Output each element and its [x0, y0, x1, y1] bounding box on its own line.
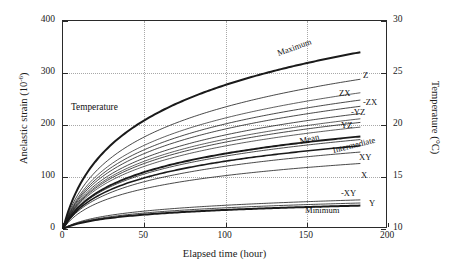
axis-tick-secondary	[381, 229, 386, 230]
axis-tick	[388, 223, 389, 227]
chart-root: Anelastic strain (10-6) Temperature (°C)…	[0, 0, 449, 278]
curve-label-y: Y	[369, 199, 375, 208]
temperature-annotation: Temperature	[71, 102, 118, 112]
y2-tick-label: 15	[393, 171, 423, 181]
y2-tick-label: 30	[393, 15, 423, 25]
curve-label-z: Z	[363, 71, 368, 80]
x-tick-label: 0	[42, 231, 82, 241]
y2-tick-label: 25	[393, 67, 423, 77]
y-tick-label: 100	[15, 171, 55, 181]
x-tick-label: 200	[367, 231, 407, 241]
x-tick-label: 100	[205, 231, 245, 241]
y-tick-label: 300	[15, 67, 55, 77]
y-tick-label: 400	[15, 15, 55, 25]
y-tick-label: 200	[15, 119, 55, 129]
y2-axis-title: Temperature (°C)	[430, 43, 441, 193]
x-tick-label: 50	[123, 231, 163, 241]
y2-tick-label: 20	[393, 119, 423, 129]
x-axis-title: Elapsed time (hour)	[62, 248, 387, 259]
curve-label-yz: YZ	[341, 121, 352, 130]
curve-lines	[63, 21, 388, 229]
x-tick-label: 150	[286, 231, 326, 241]
curve-label--yz: -YZ	[351, 108, 365, 117]
y-axis-title-exponent: -6	[17, 76, 25, 82]
curve-label--xy: -XY	[341, 189, 356, 198]
curve-label--zx: -ZX	[363, 98, 377, 107]
curve-label-zx: ZX	[339, 89, 350, 98]
curve-label-minimum: Minimum	[305, 206, 339, 215]
curve-label-x: X	[361, 171, 367, 180]
curve-label-xy: XY	[359, 153, 371, 162]
plot-area: MaximumZZX-ZX-YZYZMeanIntermediateXYX-XY…	[62, 20, 387, 228]
